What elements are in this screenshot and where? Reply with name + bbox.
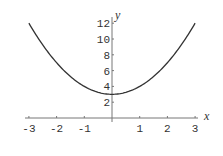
x-tick-label: 2 [164,123,171,135]
x-tick-label: -2 [50,123,63,135]
y-tick-label: 12 [97,18,110,30]
x-tick-label: -3 [22,123,35,135]
x-tick-label: -1 [78,123,92,135]
x-tick-label: 3 [192,123,199,135]
x-axis-label: x [203,109,210,123]
y-tick-label: 4 [103,81,110,93]
axes [25,17,198,122]
y-tick-label: 8 [103,50,110,62]
y-tick-label: 2 [103,97,110,109]
y-tick-label: 6 [103,66,110,78]
x-tick-label: 1 [136,123,143,135]
y-axis-label: y [114,8,121,22]
y-tick-label: 10 [97,34,110,46]
tick-labels: -3-2-112324681012 [22,18,198,135]
function-plot: -3-2-112324681012 x y [0,0,223,156]
